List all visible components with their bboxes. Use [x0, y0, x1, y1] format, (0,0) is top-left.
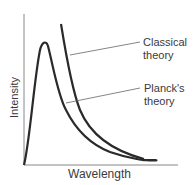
classical-label-line1: Classical	[143, 36, 187, 49]
y-axis-label: Intensity	[8, 77, 20, 118]
planck-curve	[24, 43, 156, 165]
classical-label-line2: theory	[143, 49, 187, 62]
classical-leader-line	[70, 42, 140, 55]
planck-label-line1: Planck's	[144, 82, 185, 95]
planck-leader-line	[66, 88, 140, 103]
planck-label-line2: theory	[144, 95, 185, 108]
x-axis-label: Wavelength	[68, 168, 131, 181]
classical-label: Classical theory	[143, 36, 187, 62]
classical-curve	[61, 24, 144, 159]
planck-label: Planck's theory	[144, 82, 185, 108]
